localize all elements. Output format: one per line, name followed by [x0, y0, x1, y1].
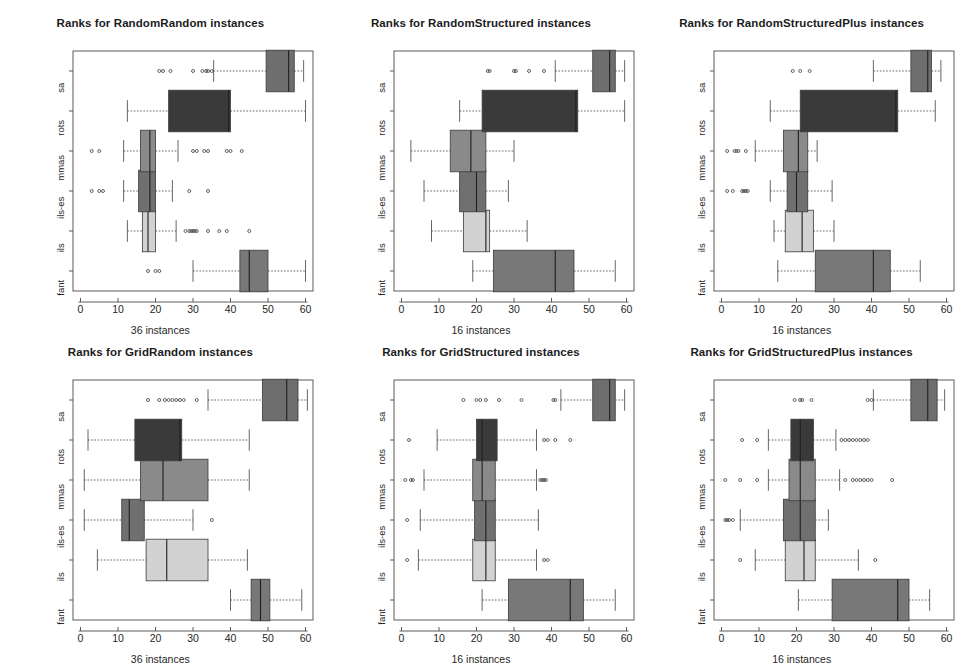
x-axis-tick-label: 20 — [150, 303, 162, 315]
y-axis-category-label: rots — [696, 120, 707, 136]
outlier-point — [863, 438, 866, 441]
boxplot-row: rots — [55, 90, 306, 136]
boxplot-row: sa — [376, 379, 625, 422]
outlier-point — [568, 438, 571, 441]
outlier-point — [248, 230, 251, 233]
y-axis-category-label: mmas — [376, 483, 387, 509]
outlier-point — [225, 150, 228, 153]
y-axis-category-label: sa — [696, 411, 707, 422]
outlier-point — [726, 150, 729, 153]
x-axis-tick-label: 50 — [583, 303, 595, 315]
outlier-point — [799, 70, 802, 73]
boxplot-row: mmas — [55, 459, 249, 510]
boxplot-row: mmas — [376, 459, 547, 510]
x-axis-tick-label: 10 — [433, 632, 445, 644]
outlier-point — [870, 478, 873, 481]
boxplot-row: sa — [696, 379, 945, 422]
boxplot-row: ils — [376, 539, 549, 581]
boxplot-row: sa — [55, 50, 304, 93]
box-rect — [474, 499, 495, 541]
outlier-point — [542, 70, 545, 73]
outlier-point — [520, 398, 523, 401]
box-rect — [262, 379, 298, 421]
box-rect — [508, 579, 583, 621]
box-rect — [816, 250, 891, 292]
box-rect — [146, 539, 208, 581]
x-axis-tick-label: 60 — [941, 632, 953, 644]
outlier-point — [855, 478, 858, 481]
outlier-point — [542, 558, 545, 561]
outlier-point — [225, 230, 228, 233]
outlier-point — [169, 70, 172, 73]
y-axis-category-label: rots — [376, 120, 387, 136]
boxplot-row: ils — [376, 210, 527, 252]
x-axis-label: 16 instances — [641, 653, 962, 665]
x-axis-tick-label: 60 — [620, 632, 632, 644]
boxplot-row: ils — [696, 210, 834, 252]
outlier-point — [867, 398, 870, 401]
boxplot-row: rots — [696, 419, 869, 465]
outlier-point — [867, 438, 870, 441]
box-rect — [139, 170, 156, 212]
y-axis-category-label: ils-es — [376, 196, 387, 218]
box-rect — [911, 50, 932, 92]
y-axis-category-label: fant — [55, 280, 66, 296]
box-rect — [472, 459, 495, 501]
boxplot-panel: Ranks for GridRandom instances0102030405… — [0, 329, 321, 658]
x-axis-label: 36 instances — [0, 653, 321, 665]
x-axis-tick-label: 50 — [583, 632, 595, 644]
outlier-point — [840, 438, 843, 441]
outlier-point — [195, 150, 198, 153]
x-axis-tick-label: 0 — [78, 303, 84, 315]
boxplot-row: fant — [376, 579, 615, 625]
outlier-point — [726, 190, 729, 193]
x-axis-tick-label: 30 — [828, 303, 840, 315]
box-rect — [266, 50, 294, 92]
outlier-point — [158, 70, 161, 73]
outlier-point — [240, 150, 243, 153]
outlier-point — [462, 398, 465, 401]
outlier-point — [859, 438, 862, 441]
outlier-point — [724, 478, 727, 481]
y-axis-category-label: ils — [55, 572, 66, 581]
outlier-point — [739, 558, 742, 561]
x-axis-tick-label: 30 — [508, 303, 520, 315]
box-rect — [801, 90, 899, 132]
y-axis-category-label: sa — [55, 82, 66, 93]
y-axis-category-label: ils — [696, 572, 707, 581]
outlier-point — [810, 398, 813, 401]
y-axis-category-label: sa — [376, 82, 387, 93]
boxplot-row: ils-es — [696, 499, 828, 548]
y-axis-category-label: ils-es — [55, 196, 66, 218]
box-rect — [142, 210, 155, 252]
outlier-point — [147, 270, 150, 273]
outlier-point — [210, 518, 213, 521]
outlier-point — [158, 398, 161, 401]
outlier-point — [403, 478, 406, 481]
outlier-point — [163, 398, 166, 401]
boxplot-row: ils — [696, 539, 877, 581]
outlier-point — [527, 70, 530, 73]
outlier-point — [192, 150, 195, 153]
outlier-point — [162, 70, 165, 73]
outlier-point — [484, 398, 487, 401]
box-rect — [482, 90, 578, 132]
x-axis-tick-label: 30 — [828, 632, 840, 644]
boxplot-row: ils — [55, 210, 251, 252]
y-axis-category-label: mmas — [376, 155, 387, 181]
box-rect — [450, 130, 486, 172]
outlier-point — [201, 70, 204, 73]
outlier-point — [147, 398, 150, 401]
x-axis-tick-label: 60 — [620, 303, 632, 315]
outlier-point — [175, 398, 178, 401]
y-axis-category-label: fant — [376, 608, 387, 624]
x-axis-tick-label: 50 — [903, 632, 915, 644]
outlier-point — [178, 398, 181, 401]
x-axis-tick-label: 40 — [225, 303, 237, 315]
box-rect — [122, 499, 145, 541]
plot-area: 0102030405060fantilsils-esmmasrotssa — [641, 329, 962, 658]
y-axis-category-label: rots — [696, 448, 707, 464]
boxplot-panel: Ranks for GridStructured instances010203… — [321, 329, 642, 658]
boxplot-row: sa — [696, 50, 941, 93]
x-axis-tick-label: 60 — [300, 632, 312, 644]
